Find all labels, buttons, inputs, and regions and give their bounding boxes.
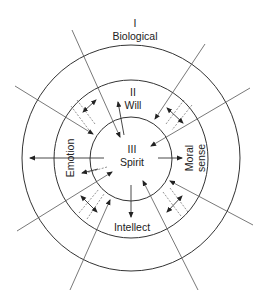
dashed-line xyxy=(87,194,104,219)
diagram-canvas: I Biological II Will III Spirit Emotion … xyxy=(0,0,265,297)
dashed-line xyxy=(172,105,192,130)
dashed-line xyxy=(166,100,184,124)
spirit-outward-arrows xyxy=(30,102,182,217)
concentric-diagram: I Biological II Will III Spirit Emotion … xyxy=(0,0,265,297)
moral-label: Moral xyxy=(183,145,195,171)
double-arrow xyxy=(167,196,182,212)
intellect-label: Intellect xyxy=(114,221,150,233)
inner-numeral-label: III xyxy=(128,143,137,155)
outer-numeral-label: I xyxy=(134,17,137,29)
ray-arrow xyxy=(155,44,205,119)
double-arrow xyxy=(167,108,183,123)
dashed-line xyxy=(79,189,99,213)
dashed-line xyxy=(170,188,188,212)
dashed-line xyxy=(86,167,107,173)
ray-arrow xyxy=(17,172,112,231)
sense-label: sense xyxy=(195,144,207,172)
middle-name-label: Will xyxy=(125,99,142,111)
dashed-line xyxy=(163,192,181,216)
short-arrow xyxy=(82,169,98,173)
ray-arrow xyxy=(151,88,250,146)
outer-name-label: Biological xyxy=(113,30,158,42)
ray-arrow xyxy=(70,200,110,290)
emotion-label: Emotion xyxy=(64,139,76,178)
inner-name-label: Spirit xyxy=(120,156,144,168)
double-arrow xyxy=(83,100,96,112)
middle-numeral-label: II xyxy=(130,86,136,98)
ray-arrow xyxy=(72,30,120,137)
double-arrow xyxy=(81,196,97,212)
